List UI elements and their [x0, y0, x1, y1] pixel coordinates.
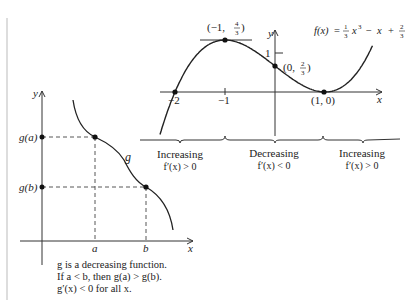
y-axis-label: y: [267, 27, 273, 39]
caption-line-3: g′(x) < 0 for all x.: [57, 283, 132, 295]
svg-text:(−1,: (−1,: [207, 21, 225, 34]
interval-2-label: Decreasing: [249, 147, 299, 159]
tick-label-neg1: −1: [218, 94, 230, 106]
ga-label: g(a): [19, 131, 38, 144]
interval-3-label: Increasing: [339, 147, 385, 159]
point-a: [92, 134, 97, 139]
tick-label-y1: 1: [265, 47, 271, 59]
caption-line-2: If a < b, then g(a) > g(b).: [57, 271, 162, 283]
figure-canvas: y x −2 −1 1 (1, 0) (−1, 4 3 ) (0, 2 3 ) …: [0, 0, 418, 307]
left-x-label: x: [187, 242, 193, 254]
svg-text:): ): [241, 21, 245, 34]
interval-1-condition: f′(x) > 0: [164, 161, 197, 173]
b-label: b: [143, 242, 149, 254]
point-yint: [272, 63, 277, 68]
svg-text:4: 4: [235, 20, 239, 28]
interval-3-condition: f′(x) > 0: [346, 160, 379, 172]
a-label: a: [92, 242, 98, 254]
decreasing-function-graph: y x g(a) g(b) a b g g is a decreasing fu…: [19, 87, 193, 295]
svg-text:f(x): f(x): [314, 25, 329, 37]
svg-text:+: +: [388, 25, 394, 36]
svg-text:=: =: [334, 25, 340, 36]
max-point-label: (−1, 4 3 ): [207, 20, 245, 37]
min-point-label: (1, 0): [311, 94, 335, 107]
x-axis-label: x: [376, 93, 382, 105]
svg-text:2: 2: [400, 23, 404, 31]
svg-text:1: 1: [344, 23, 348, 31]
g-curve: [73, 100, 173, 230]
svg-text:3: 3: [400, 32, 404, 40]
formula-label: f(x) = 1 3 x 3 − x + 2 3: [314, 23, 405, 40]
interval-1-label: Increasing: [157, 148, 203, 160]
point-b: [143, 184, 148, 189]
interval-brace: [140, 136, 400, 143]
cubic-graph: y x −2 −1 1 (1, 0) (−1, 4 3 ) (0, 2 3 ) …: [140, 20, 405, 173]
svg-text:2: 2: [301, 60, 305, 68]
svg-text:3: 3: [358, 23, 362, 31]
svg-text:3: 3: [235, 29, 239, 37]
interval-2-condition: f′(x) < 0: [258, 160, 291, 172]
point-gb-axis: [40, 185, 45, 190]
point-ga-axis: [40, 135, 45, 140]
yint-point-label: (0, 2 3 ): [283, 60, 311, 77]
svg-text:x: x: [351, 25, 357, 36]
svg-text:−: −: [366, 25, 372, 36]
caption-line-1: g is a decreasing function.: [57, 259, 167, 270]
svg-text:(0,: (0,: [283, 61, 295, 74]
tick-label-neg2: −2: [168, 94, 180, 106]
left-y-label: y: [32, 87, 38, 99]
svg-text:x: x: [376, 25, 382, 36]
svg-text:): ): [307, 61, 311, 74]
point-max: [222, 37, 227, 42]
gb-label: g(b): [19, 181, 38, 194]
g-curve-label: g: [125, 150, 131, 164]
svg-text:3: 3: [344, 32, 348, 40]
svg-text:3: 3: [301, 69, 305, 77]
